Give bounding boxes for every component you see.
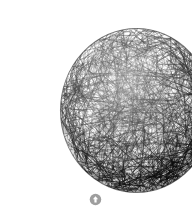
wire-sphere-graphic <box>59 27 192 194</box>
image-viewport <box>0 0 192 210</box>
wire-sphere-figure <box>59 27 192 194</box>
arrow-up-circle-icon[interactable] <box>89 193 102 206</box>
arrow-up-circle-glyph <box>89 193 102 206</box>
